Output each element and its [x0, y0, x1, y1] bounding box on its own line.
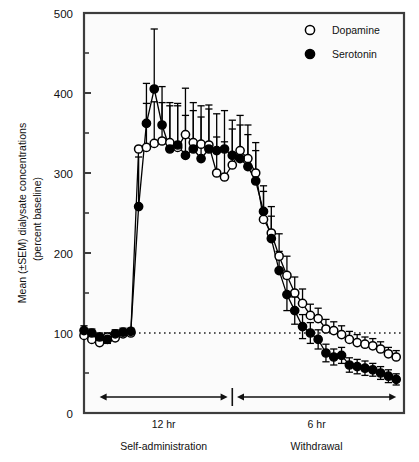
data-point-serotonin	[376, 369, 384, 377]
data-point-serotonin	[322, 349, 330, 357]
data-point-serotonin	[275, 267, 283, 275]
data-point-serotonin	[220, 145, 228, 153]
phase-caption-withdrawal: Withdrawal	[291, 440, 343, 452]
data-point-dopamine	[142, 143, 150, 151]
data-point-dopamine	[376, 345, 384, 353]
data-point-dopamine	[306, 311, 314, 319]
y-axis-label-units: (percent baseline)	[31, 177, 43, 261]
data-point-serotonin	[236, 155, 244, 163]
data-point-serotonin	[291, 307, 299, 315]
data-point-dopamine	[135, 145, 143, 153]
data-point-dopamine	[337, 331, 345, 339]
legend-marker-serotonin	[305, 49, 314, 58]
data-point-serotonin	[166, 145, 174, 153]
legend-marker-dopamine	[305, 25, 314, 34]
data-point-dopamine	[150, 139, 158, 147]
data-point-serotonin	[205, 145, 213, 153]
data-point-dopamine	[197, 140, 205, 148]
data-point-dopamine	[369, 342, 377, 350]
phase-duration-label-1: 12 hr	[152, 418, 176, 430]
data-point-serotonin	[228, 151, 236, 159]
data-point-serotonin	[330, 353, 338, 361]
data-point-dopamine	[283, 271, 291, 279]
y-tick-label: 100	[54, 328, 73, 340]
data-point-dopamine	[220, 173, 228, 181]
data-point-dopamine	[361, 340, 369, 348]
data-point-serotonin	[189, 145, 197, 153]
phase-caption-self-administration: Self-administration	[120, 440, 207, 452]
data-point-dopamine	[181, 131, 189, 139]
y-tick-label: 0	[67, 408, 73, 420]
data-point-serotonin	[127, 327, 135, 335]
data-point-serotonin	[369, 366, 377, 374]
data-point-serotonin	[337, 351, 345, 359]
data-point-serotonin	[158, 121, 166, 129]
data-point-serotonin	[252, 177, 260, 185]
plot-area	[84, 13, 404, 413]
data-point-dopamine	[322, 325, 330, 333]
data-point-serotonin	[361, 364, 369, 372]
data-point-dopamine	[392, 353, 400, 361]
data-point-serotonin	[298, 323, 306, 331]
data-point-serotonin	[119, 328, 127, 336]
data-point-serotonin	[142, 119, 150, 127]
data-point-serotonin	[135, 203, 143, 211]
data-point-serotonin	[103, 335, 111, 343]
data-point-dopamine	[275, 252, 283, 260]
data-point-serotonin	[244, 163, 252, 171]
data-point-serotonin	[96, 333, 104, 341]
data-point-serotonin	[150, 85, 158, 93]
y-tick-label: 500	[54, 8, 73, 20]
data-point-serotonin	[345, 361, 353, 369]
data-point-serotonin	[197, 155, 205, 163]
data-point-serotonin	[213, 147, 221, 155]
chart-plot: 0100200300400500 Mean (±SEM) dialysate c…	[0, 0, 419, 462]
data-point-dopamine	[228, 161, 236, 169]
legend-label-serotonin: Serotonin	[332, 48, 377, 60]
data-point-serotonin	[353, 363, 361, 371]
y-axis-label-main: Mean (±SEM) dialysate concentrations	[16, 123, 28, 303]
data-point-dopamine	[345, 335, 353, 343]
data-point-dopamine	[384, 350, 392, 358]
data-point-serotonin	[181, 151, 189, 159]
data-point-serotonin	[111, 330, 119, 338]
data-point-dopamine	[259, 215, 267, 223]
y-tick-label: 300	[54, 168, 73, 180]
data-point-serotonin	[174, 141, 182, 149]
phase-duration-label-2: 6 hr	[308, 418, 327, 430]
y-tick-label: 400	[54, 88, 73, 100]
data-point-serotonin	[259, 207, 267, 215]
plot-background	[84, 13, 404, 413]
legend-label-dopamine: Dopamine	[332, 24, 380, 36]
y-axis-title: Mean (±SEM) dialysate concentrations(per…	[16, 123, 43, 303]
phase-annotations: 12 hr6 hrSelf-administrationWithdrawal	[100, 388, 397, 452]
data-point-dopamine	[330, 327, 338, 335]
data-point-serotonin	[392, 375, 400, 383]
data-point-serotonin	[80, 327, 88, 335]
data-point-dopamine	[213, 169, 221, 177]
data-point-dopamine	[252, 169, 260, 177]
data-point-serotonin	[267, 235, 275, 243]
data-point-serotonin	[88, 329, 96, 337]
data-point-dopamine	[314, 315, 322, 323]
figure-panel: 0100200300400500 Mean (±SEM) dialysate c…	[0, 0, 419, 462]
data-point-dopamine	[244, 155, 252, 163]
data-point-dopamine	[236, 147, 244, 155]
data-point-dopamine	[353, 339, 361, 347]
data-point-serotonin	[283, 291, 291, 299]
data-point-serotonin	[314, 335, 322, 343]
data-point-dopamine	[158, 137, 166, 145]
data-point-dopamine	[298, 299, 306, 307]
data-point-serotonin	[384, 372, 392, 380]
y-tick-label: 200	[54, 248, 73, 260]
data-point-dopamine	[291, 289, 299, 297]
data-point-serotonin	[306, 329, 314, 337]
